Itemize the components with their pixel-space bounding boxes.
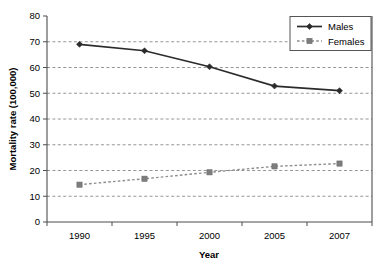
- chart-canvas: 01020304050607080 19901995200020052007 Y…: [0, 0, 391, 268]
- data-point-females-1990: [77, 182, 82, 187]
- chart-legend: MalesFemales: [290, 17, 371, 51]
- y-tick-label: 50: [29, 88, 40, 99]
- legend-label: Females: [328, 36, 365, 47]
- x-tick-label: 2007: [329, 230, 350, 241]
- y-tick-label: 40: [29, 113, 40, 124]
- y-tick-label: 60: [29, 62, 40, 73]
- y-axis-title: Mortality rate (100,000): [7, 68, 18, 171]
- data-point-females-1995: [142, 176, 147, 181]
- data-point-females-2007: [337, 161, 342, 166]
- y-tick-label: 30: [29, 139, 40, 150]
- data-point-females-2000: [207, 170, 212, 175]
- x-axis-title: Year: [199, 249, 219, 260]
- x-tick-label: 2005: [264, 230, 285, 241]
- y-tick-label: 10: [29, 191, 40, 202]
- legend-marker-females: [307, 38, 312, 43]
- y-tick-label: 0: [35, 216, 40, 227]
- y-tick-label: 20: [29, 165, 40, 176]
- x-tick-label: 2000: [199, 230, 220, 241]
- legend-label: Males: [328, 21, 354, 32]
- x-tick-label: 1990: [69, 230, 90, 241]
- y-tick-label-group: 01020304050607080: [29, 10, 40, 227]
- y-tick-label: 80: [29, 10, 40, 21]
- line-chart: 01020304050607080 19901995200020052007 Y…: [0, 0, 391, 268]
- y-tick-label: 70: [29, 36, 40, 47]
- data-point-females-2005: [272, 164, 277, 169]
- x-tick-label: 1995: [134, 230, 155, 241]
